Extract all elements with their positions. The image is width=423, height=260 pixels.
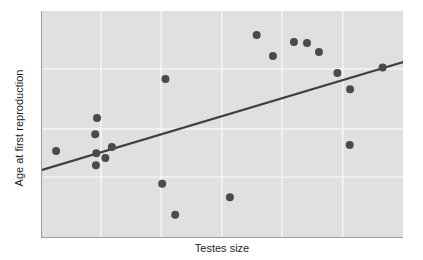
data-point	[171, 211, 179, 219]
data-point	[92, 161, 100, 169]
y-axis-label: Age at first reproduction	[10, 15, 28, 242]
plot-panel	[41, 11, 403, 238]
data-point	[158, 180, 166, 188]
data-point	[161, 75, 169, 83]
data-point	[52, 147, 60, 155]
data-point	[290, 38, 298, 46]
data-point	[91, 130, 99, 138]
data-point	[333, 69, 341, 77]
data-point	[379, 64, 387, 72]
data-point	[315, 48, 323, 56]
data-point	[226, 193, 234, 201]
data-point	[92, 149, 100, 157]
data-point	[269, 52, 277, 60]
data-point	[93, 114, 101, 122]
x-axis-label: Testes size	[41, 242, 403, 254]
data-point	[303, 39, 311, 47]
data-point	[346, 85, 354, 93]
data-point	[253, 31, 261, 39]
scatter-plot-figure: Age at first reproduction Testes size	[0, 0, 423, 260]
plot-canvas	[42, 11, 403, 238]
data-points	[52, 31, 387, 219]
data-point	[101, 154, 109, 162]
data-point	[108, 143, 116, 151]
data-point	[346, 141, 354, 149]
